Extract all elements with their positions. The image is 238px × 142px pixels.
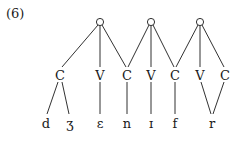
skeleton-slot: C — [122, 68, 132, 83]
skeleton-slot: C — [220, 68, 230, 83]
skeleton-slot: V — [145, 68, 156, 83]
segment: n — [123, 116, 132, 131]
skeleton-slot: C — [170, 68, 180, 83]
segment: d — [42, 116, 50, 131]
segment: f — [173, 116, 179, 131]
segment: r — [209, 116, 216, 131]
syllable-structure-tree: C V C V C V C d ʒ ɛ n ɪ f r — [0, 0, 238, 142]
skeleton-slot: V — [194, 68, 205, 83]
syllable-node-2 — [147, 18, 154, 25]
syllable-node-1 — [96, 18, 103, 25]
segment: ʒ — [66, 116, 73, 131]
skeleton-slot: C — [55, 68, 65, 83]
segment: ɛ — [97, 116, 104, 131]
segment: ɪ — [149, 116, 153, 131]
syllable-node-3 — [196, 18, 203, 25]
skeleton-slot: V — [94, 68, 105, 83]
